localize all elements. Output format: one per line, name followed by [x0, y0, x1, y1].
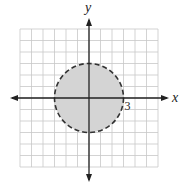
- x-axis-arrow-left: [10, 95, 18, 101]
- graph: x y 3: [0, 0, 185, 185]
- y-axis-label: y: [83, 0, 92, 15]
- x-axis-arrow-right: [161, 95, 169, 101]
- y-axis-arrow-up: [86, 18, 92, 26]
- x-tick-label-3: 3: [125, 99, 131, 113]
- y-axis-arrow-down: [86, 174, 92, 182]
- x-axis-label: x: [171, 90, 179, 105]
